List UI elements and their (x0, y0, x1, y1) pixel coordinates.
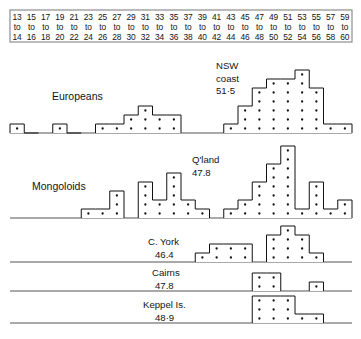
count-dot (144, 185, 146, 187)
histogram-bar-outline (224, 146, 352, 218)
count-dot (244, 109, 246, 111)
bin-range-end: 56 (312, 32, 322, 42)
count-dot (315, 285, 317, 287)
count-dot (287, 203, 289, 205)
count-dot (287, 91, 289, 93)
row-label-keppel: Keppel Is. (143, 299, 186, 310)
count-dot (287, 256, 289, 258)
bin-range-start: 35 (169, 12, 179, 22)
bin-range-start: 21 (69, 12, 79, 22)
bin-range-end: 54 (297, 32, 307, 42)
bin-header-cell: 45to46 (240, 12, 250, 42)
bin-range-end: 48 (255, 32, 265, 42)
count-dot (272, 317, 274, 319)
bin-range-to: to (341, 22, 348, 32)
bin-range-to: to (85, 22, 92, 32)
bin-range-to: to (56, 22, 63, 32)
bin-range-to: to (42, 22, 49, 32)
count-dot (287, 82, 289, 84)
bin-range-end: 58 (326, 32, 336, 42)
count-dot (287, 167, 289, 169)
count-dot (144, 203, 146, 205)
bin-range-end: 28 (112, 32, 122, 42)
bin-header-cell: 53to54 (297, 12, 307, 42)
bin-range-to: to (270, 22, 277, 32)
bin-header-cell: 21to22 (69, 12, 79, 42)
bin-header-cell: 43to44 (226, 12, 236, 42)
count-dot (201, 212, 203, 214)
row-annotation-europeans: coast (216, 73, 239, 84)
count-dot (258, 203, 260, 205)
count-dot (215, 256, 217, 258)
bin-range-end: 14 (12, 32, 22, 42)
count-dot (287, 238, 289, 240)
count-dot (173, 203, 175, 205)
count-dot (315, 212, 317, 214)
count-dot (244, 203, 246, 205)
count-dot (315, 100, 317, 102)
count-dot (272, 127, 274, 129)
bin-range-start: 59 (340, 12, 350, 22)
bin-range-to: to (242, 22, 249, 32)
count-dot (244, 256, 246, 258)
count-dot (272, 276, 274, 278)
bin-header-cell: 51to52 (283, 12, 293, 42)
count-dot (215, 247, 217, 249)
bin-range-end: 24 (84, 32, 94, 42)
count-dot (301, 256, 303, 258)
count-dot (315, 317, 317, 319)
count-dot (59, 127, 61, 129)
bin-range-start: 43 (226, 12, 236, 22)
count-dot (173, 194, 175, 196)
bin-range-start: 31 (141, 12, 151, 22)
count-dot (329, 127, 331, 129)
bin-range-end: 60 (340, 32, 350, 42)
bin-range-end: 30 (126, 32, 136, 42)
bin-range-end: 46 (240, 32, 250, 42)
bin-range-start: 41 (212, 12, 222, 22)
count-dot (315, 127, 317, 129)
count-dot (315, 91, 317, 93)
count-dot (272, 167, 274, 169)
count-dot (258, 299, 260, 301)
bin-range-start: 49 (269, 12, 279, 22)
count-dot (287, 299, 289, 301)
count-dot (272, 100, 274, 102)
count-dot (315, 185, 317, 187)
count-dot (272, 194, 274, 196)
bin-header-cell: 15to16 (27, 12, 37, 42)
count-dot (258, 194, 260, 196)
count-dot (315, 256, 317, 258)
count-dot (272, 238, 274, 240)
bin-range-end: 38 (183, 32, 193, 42)
row-label-cyork: C. York (148, 236, 179, 247)
count-dot (173, 127, 175, 129)
bin-range-start: 29 (126, 12, 136, 22)
count-dot (258, 118, 260, 120)
bin-range-to: to (299, 22, 306, 32)
bin-range-to: to (170, 22, 177, 32)
bin-range-to: to (199, 22, 206, 32)
count-dot (272, 185, 274, 187)
histogram-rows (10, 70, 352, 323)
bin-range-start: 17 (41, 12, 51, 22)
bin-header-cell: 39to40 (198, 12, 208, 42)
bin-header-cell: 55to56 (312, 12, 322, 42)
bin-header-cell: 35to36 (169, 12, 179, 42)
count-dot (116, 203, 118, 205)
bin-range-to: to (156, 22, 163, 32)
count-dot (272, 256, 274, 258)
bin-range-start: 19 (55, 12, 65, 22)
count-dot (272, 285, 274, 287)
bin-header-cell: 23to24 (84, 12, 94, 42)
bin-range-start: 39 (198, 12, 208, 22)
count-dot (301, 247, 303, 249)
count-dot (130, 118, 132, 120)
count-dot (287, 247, 289, 249)
bin-range-start: 53 (297, 12, 307, 22)
count-dot (315, 203, 317, 205)
count-dot (315, 118, 317, 120)
bin-range-to: to (313, 22, 320, 32)
count-dot (230, 127, 232, 129)
bin-range-end: 52 (283, 32, 293, 42)
